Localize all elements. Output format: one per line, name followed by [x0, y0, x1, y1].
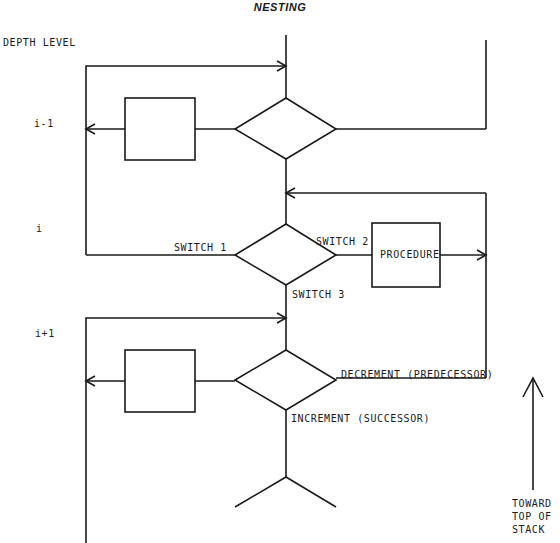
process-box-i-1: [125, 98, 195, 160]
procedure-box: [372, 223, 440, 287]
spine-fork: [235, 477, 336, 507]
decision-diamond-i: [235, 224, 336, 285]
decision-diamond-i-1: [235, 98, 336, 159]
decision-diamond-i-plus-1: [235, 350, 336, 410]
loop-line-i-plus-1: [86, 318, 286, 543]
process-box-i-plus-1: [125, 350, 195, 412]
nesting-flowchart: [0, 0, 560, 543]
